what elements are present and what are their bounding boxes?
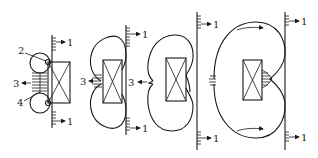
label-1-top: 1 bbox=[67, 37, 73, 48]
label-1-top: 1 bbox=[301, 16, 307, 27]
label-3: 3 bbox=[128, 77, 134, 88]
label-1-bottom: 1 bbox=[213, 133, 219, 144]
circulation-arrow-top bbox=[237, 27, 263, 30]
label-1-top: 1 bbox=[213, 19, 219, 30]
center-hatch bbox=[32, 73, 47, 93]
circulation-arrow-bottom bbox=[237, 128, 263, 131]
diagram-canvas: 1 1 3 2 4 1 1 bbox=[0, 0, 318, 158]
label-1-bottom: 1 bbox=[142, 123, 148, 134]
callout-line-4 bbox=[24, 92, 40, 101]
label-1-bottom: 1 bbox=[67, 116, 73, 127]
panel-4: 1 1 bbox=[209, 12, 307, 150]
recirculation-envelope bbox=[90, 36, 126, 128]
label-1-top: 1 bbox=[142, 29, 148, 40]
label-1-bottom: 1 bbox=[301, 132, 307, 143]
label-4: 4 bbox=[17, 97, 23, 108]
panel-2: 1 1 3 bbox=[80, 25, 148, 135]
label-2: 2 bbox=[18, 45, 24, 56]
wall-hatch bbox=[52, 38, 56, 124]
label-3: 3 bbox=[80, 76, 86, 87]
label-3: 3 bbox=[13, 78, 19, 89]
recirculation-envelope bbox=[214, 22, 285, 138]
panel-1: 1 1 3 2 4 bbox=[13, 35, 73, 128]
